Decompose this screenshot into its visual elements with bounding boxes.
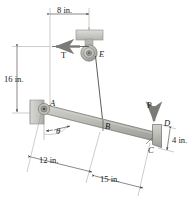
angle-label-theta: θ [56, 126, 60, 136]
point-label-D: D [164, 118, 170, 128]
dimension-15in [95, 143, 150, 196]
force-label-P: P [147, 100, 152, 110]
point-label-C: C [148, 145, 154, 155]
figure-canvas: 8 in. 16 in. 12 in. 15 in. 4 in. A B C D… [0, 0, 195, 200]
ceiling-bracket [76, 27, 103, 47]
force-label-T: T [61, 50, 66, 60]
point-label-E: E [99, 49, 104, 59]
point-label-B: B [105, 121, 110, 131]
dimension-label-15in: 15 in. [100, 174, 119, 184]
pulley-E [81, 45, 97, 61]
dimension-label-12in: 12 in. [39, 155, 58, 165]
dimension-label-8in: 8 in. [57, 5, 72, 15]
dimension-label-4in: 4 in. [172, 135, 187, 145]
diagram-svg [0, 0, 195, 200]
pin-joint-A [38, 103, 49, 114]
dimension-label-16in: 16 in. [4, 74, 23, 84]
point-label-A: A [50, 98, 55, 108]
